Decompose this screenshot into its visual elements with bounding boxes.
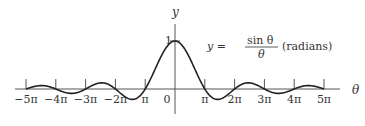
x-tick-label-7: 2π bbox=[227, 93, 241, 106]
x-tick-label-2: −3π bbox=[74, 93, 97, 106]
equation-lhs: y = bbox=[206, 40, 226, 53]
x-tick-label-9: 4π bbox=[287, 93, 301, 106]
x-tick-label-1: −4π bbox=[44, 93, 67, 106]
x-tick-label-6: π bbox=[201, 93, 208, 106]
equation-annotation: y = sin θ θ (radians) bbox=[206, 34, 332, 61]
x-tick-label-10: 5π bbox=[317, 93, 331, 106]
equation-suffix: (radians) bbox=[282, 40, 332, 53]
equation-numerator: sin θ bbox=[247, 34, 274, 47]
x-tick-label-5: 0 bbox=[164, 93, 171, 106]
y-axis-label: y bbox=[171, 5, 179, 19]
x-tick-label-4: π bbox=[142, 93, 149, 106]
equation-lhs-equals: = bbox=[213, 40, 226, 53]
x-axis-label: θ bbox=[352, 83, 360, 97]
y-tick-label-1: 1 bbox=[165, 34, 172, 47]
x-tick-labels: −5π−4π−3π−2ππ0π2π3π4π5π bbox=[14, 93, 331, 106]
equation-denominator: θ bbox=[258, 48, 265, 61]
x-tick-label-8: 3π bbox=[257, 93, 271, 106]
x-tick-label-0: −5π bbox=[14, 93, 37, 106]
sinc-chart: −5π−4π−3π−2ππ0π2π3π4π5π θ y 1 y = sin θ … bbox=[0, 0, 365, 126]
